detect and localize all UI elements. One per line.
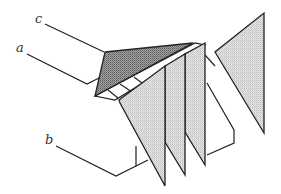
label-b: b (45, 132, 53, 147)
diagram-canvas: c a b (0, 0, 281, 194)
folded-sheet-2 (165, 54, 185, 175)
label-a-leader (27, 54, 99, 84)
right-triangle-sheet (215, 13, 264, 133)
folded-sheets-diagram: c a b (0, 0, 281, 194)
folded-sheet-3 (185, 43, 205, 165)
label-a: a (16, 40, 24, 55)
label-c: c (35, 11, 43, 26)
label-c-leader (45, 24, 104, 52)
label-b-leader (56, 146, 136, 176)
right-base-edge (207, 83, 234, 155)
